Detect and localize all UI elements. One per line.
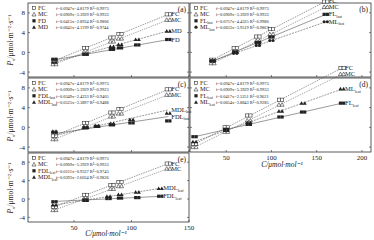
y-tick-label: 0 <box>22 49 26 57</box>
series-end-label: MC <box>171 16 181 23</box>
legend-entry: MLlastf=0.0633x−3.9519 R²=0.9867 <box>194 23 269 32</box>
svg-text:f=0.0633x−3.9519 R²=0.9867: f=0.0633x−3.9519 R²=0.9867 <box>216 25 269 30</box>
legend-entry: MLleaff=0.0654x−3.8843 R²=0.9285 <box>194 98 269 107</box>
series-end-label: FLleaf <box>345 99 359 108</box>
panel-letter: (b) <box>359 5 368 14</box>
x-tick-label: 100 <box>126 224 137 232</box>
multi-panel-figure: 840-4FCMCFDMDFCf=0.0947x−4.8179 R²=0.997… <box>0 0 374 240</box>
svg-text:f=0.0909x−5.3929 R²=0.9933: f=0.0909x−5.3929 R²=0.9933 <box>56 12 109 17</box>
x-tick-label: 200 <box>357 154 368 162</box>
series-end-label: MC <box>171 91 181 98</box>
panel-letter: (a) <box>178 5 187 14</box>
svg-text:f=0.0757x−4.4325 R²=0.9980: f=0.0757x−4.4325 R²=0.9980 <box>216 19 269 24</box>
y-tick-label: 0 <box>22 124 26 132</box>
svg-text:f=0.0415x−2.8934 R²=0.9806: f=0.0415x−2.8934 R²=0.9806 <box>56 19 109 24</box>
y-tick-label: -4 <box>19 144 25 152</box>
svg-text:MLleaf: MLleaf <box>200 98 216 107</box>
svg-text:f=0.0909x−5.3929 R²=0.9923: f=0.0909x−5.3929 R²=0.9923 <box>56 87 109 92</box>
y-tick-label: 4 <box>22 29 26 37</box>
panel-e: 840-450100150FCMCFDLleafMDLleafFCf=0.094… <box>19 153 195 232</box>
y-tick-label: 0 <box>22 196 26 204</box>
series-end-label: MC <box>171 165 181 172</box>
fit-line <box>195 103 343 137</box>
svg-text:f=0.0909x−5.3929 R²=0.9933: f=0.0909x−5.3929 R²=0.9933 <box>216 12 269 17</box>
svg-text:f=0.0121x−0.9337 R²=0.9743: f=0.0121x−0.9337 R²=0.9743 <box>56 169 109 174</box>
legend-entry: MDLleaff=0.0393x−2.6034 R²=0.9826 <box>32 173 109 182</box>
fit-line <box>195 68 343 144</box>
y-tick-label: 4 <box>22 104 26 112</box>
y-tick-label: 8 <box>22 9 26 17</box>
x-tick-label: 50 <box>71 224 79 232</box>
panel-a: 840-4FCMCFDMDFCf=0.0947x−4.8179 R²=0.997… <box>19 3 189 77</box>
x-axis-label-d: C/μmol·mol⁻¹ <box>261 160 303 169</box>
panel-letter: (d) <box>359 80 368 89</box>
svg-text:f=0.0947x−4.8179 R²=0.9973: f=0.0947x−4.8179 R²=0.9973 <box>56 6 109 11</box>
series-end-label: MC <box>345 70 355 77</box>
legend-entry: MDf=0.0641x−4.1199 R²=0.9744 <box>32 23 109 30</box>
panel-b: FCMCFLlastMLlastFCf=0.0947x−4.8179 R²=0.… <box>190 0 371 77</box>
svg-text:f=0.0947x−4.8179 R²=0.9973: f=0.0947x−4.8179 R²=0.9973 <box>216 81 269 86</box>
y-tick-label: 8 <box>22 84 26 92</box>
svg-text:f=0.0525x−3.3897 R²=0.9488: f=0.0525x−3.3897 R²=0.9488 <box>56 100 109 105</box>
series-end-label: MLlast <box>329 18 345 27</box>
svg-text:f=0.0947x−4.8179 R²=0.9973: f=0.0947x−4.8179 R²=0.9973 <box>56 81 109 86</box>
svg-text:f=0.0349x−2.4233 R²=0.9405: f=0.0349x−2.4233 R²=0.9405 <box>56 94 109 99</box>
svg-text:f=0.0909x−5.3929 R²=0.9933: f=0.0909x−5.3929 R²=0.9933 <box>216 87 269 92</box>
y-tick-label: 8 <box>22 159 26 167</box>
svg-text:f=0.0909x−5.3929 R²=0.9933: f=0.0909x−5.3929 R²=0.9933 <box>56 162 109 167</box>
svg-text:f=0.0417x−2.5251 R²=0.9621: f=0.0417x−2.5251 R²=0.9621 <box>216 94 269 99</box>
svg-text:f=0.0393x−2.6034 R²=0.9826: f=0.0393x−2.6034 R²=0.9826 <box>56 175 109 180</box>
legend-entry: MDLlastf=0.0525x−3.3897 R²=0.9488 <box>32 98 109 107</box>
svg-text:f=0.0654x−3.8843 R²=0.9285: f=0.0654x−3.8843 R²=0.9285 <box>216 100 269 105</box>
series-end-label: MC <box>329 3 339 10</box>
panel-c: 840-4FCMCFDLlastMDLlastFCf=0.0947x−4.817… <box>19 78 192 152</box>
x-tick-label: 150 <box>311 154 322 162</box>
y-axis-label-a: Pn/μmol·m⁻²·s⁻¹ <box>6 14 16 66</box>
x-tick-label: 150 <box>184 224 195 232</box>
panel-letter: (e) <box>178 155 187 164</box>
panel-letter: (c) <box>178 80 187 89</box>
series-end-label: MD <box>171 27 182 34</box>
svg-text:f=0.0641x−4.1199 R²=0.9744: f=0.0641x−4.1199 R²=0.9744 <box>56 25 109 30</box>
panel-d: 50100150200FCMCFLleafMLleafFCf=0.0947x−4… <box>190 64 371 162</box>
series-end-label: FD <box>171 36 180 43</box>
svg-text:f=0.0947x−4.8179 R²=0.9973: f=0.0947x−4.8179 R²=0.9973 <box>216 6 269 11</box>
x-tick-label: 50 <box>223 154 231 162</box>
y-axis-label-c: Pn/μmol·m⁻²·s⁻¹ <box>6 90 16 142</box>
svg-text:MLlast: MLlast <box>200 23 215 32</box>
y-tick-label: -4 <box>19 214 25 222</box>
y-axis-label-e: Pn/μmol·m⁻²·s⁻¹ <box>6 162 16 214</box>
series-end-label: FDLleaf <box>163 192 182 201</box>
y-tick-label: 4 <box>22 177 26 185</box>
y-tick-label: -4 <box>19 69 25 77</box>
x-axis-label-e: C/μmol·mol⁻¹ <box>85 229 127 238</box>
svg-text:f=0.0947x−4.8179 R²=0.9973: f=0.0947x−4.8179 R²=0.9973 <box>56 156 109 161</box>
svg-text:MD: MD <box>38 23 49 30</box>
